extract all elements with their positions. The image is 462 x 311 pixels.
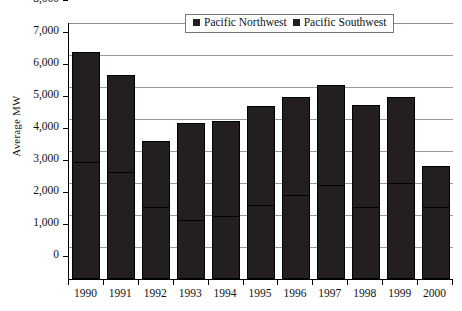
bar-segment-pacific-southwest: [212, 121, 240, 217]
bar-2000: [422, 166, 450, 279]
bar-1995: [247, 106, 275, 279]
bar-segment-pacific-northwest: [422, 208, 450, 279]
y-axis-tick-label: 8,000: [33, 0, 59, 4]
chart-legend: Pacific Northwest Pacific Southwest: [185, 14, 394, 33]
bar-1990: [72, 52, 100, 279]
x-axis: 1990199119921993199419951996199719981999…: [68, 280, 452, 310]
bar-segment-pacific-southwest: [247, 106, 275, 206]
bar-1996: [282, 97, 310, 279]
bar-segment-pacific-northwest: [142, 208, 170, 279]
bar-segment-pacific-southwest: [317, 85, 345, 186]
x-axis-label-1998: 1998: [353, 287, 376, 299]
x-axis-label-1990: 1990: [74, 287, 97, 299]
bar-segment-pacific-southwest: [282, 97, 310, 196]
legend-item-pacific-southwest: Pacific Southwest: [293, 17, 387, 29]
y-axis-tick-label: 3,000: [33, 152, 59, 164]
bar-segment-pacific-northwest: [107, 173, 135, 279]
bar-1994: [212, 121, 240, 279]
x-axis-label-1996: 1996: [283, 287, 306, 299]
bar-1997: [317, 85, 345, 279]
plot-area: [68, 23, 453, 280]
bar-segment-pacific-northwest: [352, 208, 380, 279]
x-axis-label-1995: 1995: [249, 287, 272, 299]
bar-1992: [142, 141, 170, 279]
y-axis-tick-mark: [63, 0, 68, 1]
x-axis-label-1992: 1992: [144, 287, 167, 299]
legend-label: Pacific Southwest: [304, 17, 387, 29]
y-axis-tick-label: 7,000: [33, 24, 59, 36]
x-axis-tick: [208, 280, 209, 285]
bar-segment-pacific-northwest: [177, 221, 205, 279]
y-axis-ticks: 8,0007,0006,0005,0004,0003,0002,0001,000…: [0, 0, 68, 256]
y-axis-tick-label: 6,000: [33, 56, 59, 68]
y-axis-tick-label: 0: [53, 248, 59, 260]
bar-segment-pacific-southwest: [142, 141, 170, 208]
bar-1999: [387, 97, 415, 279]
x-axis-tick: [138, 280, 139, 285]
bar-segment-pacific-northwest: [387, 184, 415, 279]
bar-segment-pacific-southwest: [387, 97, 415, 183]
bar-1991: [107, 75, 135, 279]
y-axis-tick-label: 5,000: [33, 88, 59, 100]
bar-segment-pacific-northwest: [247, 206, 275, 279]
bar-segment-pacific-northwest: [212, 217, 240, 279]
bar-segment-pacific-northwest: [317, 186, 345, 279]
legend-swatch-icon: [193, 19, 200, 26]
x-axis-tick: [382, 280, 383, 285]
bar-segment-pacific-northwest: [282, 196, 310, 279]
legend-label: Pacific Northwest: [204, 17, 287, 29]
x-axis-label-2000: 2000: [423, 287, 446, 299]
y-axis-tick-label: 4,000: [33, 120, 59, 132]
bar-1998: [352, 105, 380, 279]
x-axis-label-1994: 1994: [214, 287, 237, 299]
bar-segment-pacific-southwest: [107, 75, 135, 174]
bar-segment-pacific-southwest: [422, 166, 450, 207]
bar-segment-pacific-northwest: [72, 163, 100, 279]
x-axis-tick: [68, 280, 69, 285]
legend-item-pacific-northwest: Pacific Northwest: [193, 17, 287, 29]
x-axis-label-1999: 1999: [388, 287, 411, 299]
bar-segment-pacific-southwest: [72, 52, 100, 163]
bar-segment-pacific-southwest: [177, 123, 205, 221]
x-axis-label-1997: 1997: [318, 287, 341, 299]
x-axis-label-1991: 1991: [109, 287, 132, 299]
x-axis-tick: [312, 280, 313, 285]
x-axis-tick: [103, 280, 104, 285]
x-axis-tick: [452, 280, 453, 285]
bar-segment-pacific-southwest: [352, 105, 380, 207]
y-axis-tick-label: 1,000: [33, 216, 59, 228]
stacked-bar-chart: Average MW 8,0007,0006,0005,0004,0003,00…: [0, 0, 462, 311]
x-axis-label-1993: 1993: [179, 287, 202, 299]
x-axis-tick: [417, 280, 418, 285]
y-axis-tick-label: 2,000: [33, 184, 59, 196]
legend-swatch-icon: [293, 19, 300, 26]
x-axis-tick: [277, 280, 278, 285]
x-axis-tick: [173, 280, 174, 285]
bar-1993: [177, 123, 205, 279]
x-axis-tick: [243, 280, 244, 285]
x-axis-tick: [347, 280, 348, 285]
gridline: [69, 55, 453, 56]
